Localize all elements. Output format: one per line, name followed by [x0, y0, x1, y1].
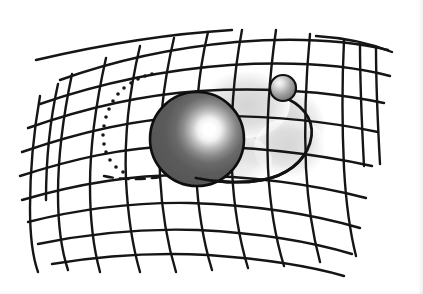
orbit-dot-8	[104, 115, 108, 119]
spacetime-curvature-figure	[0, 0, 423, 294]
orbit-dot-12	[104, 150, 108, 154]
orbit-dot-1	[143, 74, 147, 78]
orbit-dot-15	[121, 170, 125, 174]
small-sphere	[270, 75, 296, 101]
orbit-dot-4	[122, 86, 126, 90]
spacetime-illustration-canvas	[0, 0, 423, 294]
orbit-dot-5	[116, 92, 120, 96]
orbit-dot-13	[108, 158, 112, 162]
orbit-dot-3	[129, 81, 133, 85]
large-sphere	[150, 92, 244, 186]
large-sphere-body	[150, 92, 244, 186]
orbit-dot-6	[111, 99, 115, 103]
orbit-dot-9	[102, 124, 106, 128]
orbit-dot-0	[150, 72, 154, 76]
orbit-dot-14	[114, 165, 118, 169]
orbit-dot-10	[101, 133, 105, 137]
orbit-dot-2	[136, 77, 140, 81]
orbit-dot-7	[107, 107, 111, 111]
orbit-dot-11	[102, 142, 106, 146]
small-sphere-body	[270, 75, 296, 101]
